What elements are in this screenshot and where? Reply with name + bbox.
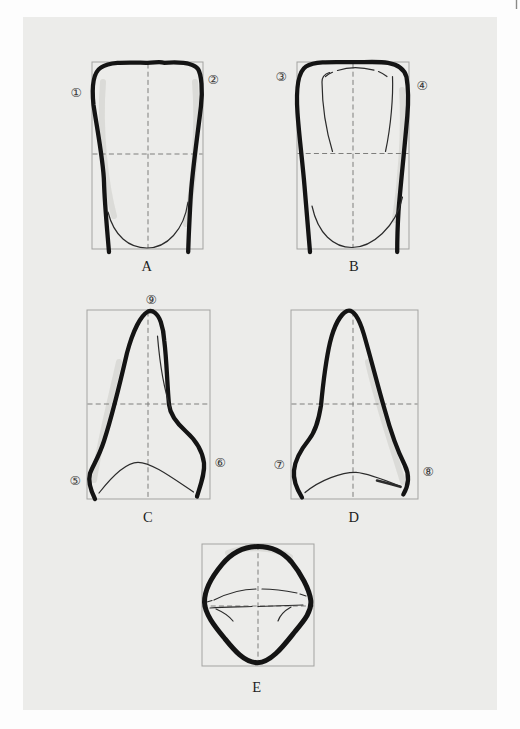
panel-c (87, 310, 210, 499)
edge-line-left-e (210, 607, 252, 609)
cervical-line-a (108, 202, 188, 248)
panel-d (291, 310, 418, 499)
incisal-arc-right-e (262, 589, 297, 593)
panel-label-a: A (142, 259, 153, 274)
cervical-line-b (312, 197, 403, 248)
incisal-ridge-arc-b (338, 68, 375, 71)
marker-circled-8: ⑧ (422, 466, 433, 479)
incisal-dash-left-e (207, 601, 212, 603)
panel-label-c: C (143, 510, 153, 525)
cervical-line-c (99, 462, 194, 493)
panel-d-ghost-stroke (368, 362, 403, 482)
marginal-ridge-right-b (386, 77, 393, 152)
marker-circled-6: ⑥ (214, 457, 225, 470)
panel-label-b: B (349, 259, 359, 274)
marker-circled-4: ④ (416, 80, 427, 93)
hook-left-e (216, 609, 233, 621)
panel-a (92, 62, 203, 252)
panel-label-e: E (252, 680, 261, 695)
marker-circled-3: ③ (275, 71, 286, 84)
panel-label-d: D (349, 510, 360, 525)
marginal-ridge-left-b (322, 73, 333, 152)
marker-circled-2: ② (207, 74, 218, 87)
ridge-dash-right-b (379, 72, 388, 77)
panel-b (297, 62, 409, 252)
tooth-diagram-svg (0, 0, 520, 729)
panel-e (202, 544, 314, 666)
marginal-ridge-lines-b (322, 68, 393, 152)
marker-circled-5: ⑤ (69, 475, 80, 488)
incisal-arc-left-e (214, 589, 256, 600)
marker-circled-9: ⑨ (145, 294, 156, 307)
incisal-dash-right-e (300, 594, 306, 596)
hook-right-e (278, 607, 291, 621)
marker-circled-7: ⑦ (273, 459, 284, 472)
marker-circled-1: ① (70, 87, 81, 100)
figure-page: ① ② ③ ④ ⑤ ⑥ ⑦ ⑧ ⑨ A B C D E (0, 0, 520, 729)
incisal-edge-lines-e (207, 589, 306, 621)
panel-c-ghost-stroke (94, 362, 119, 480)
